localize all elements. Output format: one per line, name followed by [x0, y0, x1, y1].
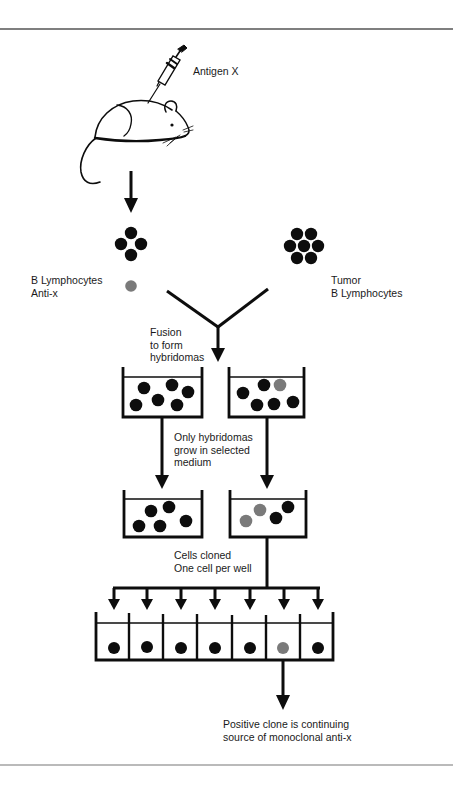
arrow-immunize — [124, 171, 138, 213]
arrow-positive-clone — [276, 661, 290, 710]
result-label: Positive clone is continuing source of m… — [223, 718, 351, 743]
selection-label: Only hybridomas grow in selected medium — [174, 431, 253, 469]
b-lymphocytes-label: B Lymphocytes Anti-x — [31, 274, 102, 299]
selected-dish-1 — [124, 490, 202, 537]
arrow-fusion — [211, 348, 225, 362]
hybridoma-diagram — [0, 0, 453, 788]
fusion-label: Fusion to form hybridomas — [150, 326, 204, 364]
distribution-arrows — [108, 588, 324, 610]
fusion-dish-1 — [123, 367, 202, 417]
tumor-cell-cluster — [284, 228, 324, 264]
fusion-dish-2 — [229, 367, 304, 417]
positive-clone-cell — [277, 642, 289, 654]
clone-wells — [96, 612, 333, 660]
b-lymphocyte-cluster — [115, 227, 147, 292]
arrow-select-2 — [260, 418, 274, 489]
arrow-select-1 — [155, 418, 169, 489]
tumor-label: Tumor B Lymphocytes — [331, 274, 402, 299]
antigen-label: Antigen X — [193, 65, 239, 78]
selected-dish-2 — [230, 490, 306, 537]
cloning-label: Cells cloned One cell per well — [174, 549, 252, 574]
mouse-icon — [81, 100, 193, 183]
syringe-icon — [148, 45, 187, 103]
